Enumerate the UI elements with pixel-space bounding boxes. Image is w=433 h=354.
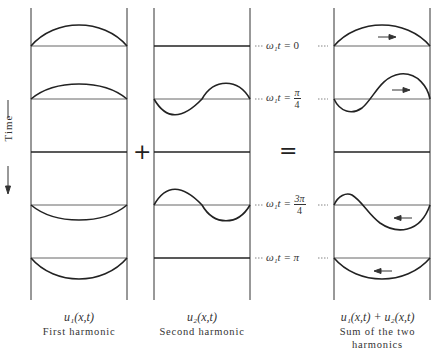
direction-arrows [374,35,412,274]
column-caption-sum: u₁(x,t) + u₂(x,t) Sum of the two harmoni… [322,310,433,351]
arrow-right-icon [389,35,396,40]
sum-t0 [334,25,430,46]
time-label-0: ω₁t = 0 [266,39,299,51]
arrow-left-icon [374,269,381,274]
first-harmonic-t4 [31,258,127,279]
time-label-pi-over-4: ω₁t = π4 [266,87,301,110]
first-harmonic-t3 [31,205,127,220]
time-label-3pi-over-4: ω₁t = 3π4 [266,193,306,216]
column-caption-second: u₂(x,t) Second harmonic [142,310,262,338]
time-axis-label: Time [0,104,16,204]
column-caption-first: u₁(x,t) First harmonic [21,310,137,338]
sum-t4 [334,258,430,279]
arrow-left-icon [394,216,401,221]
equals-symbol: = [279,138,297,163]
plus-symbol: + [133,139,151,164]
waveforms [31,25,430,279]
time-label-pi: ω₁t = π [266,251,299,263]
sum-t1 [334,74,430,112]
first-harmonic-t0 [31,25,127,46]
arrow-right-icon [403,88,410,93]
sum-t3 [334,194,430,230]
first-harmonic-t1 [31,84,127,99]
harmonics-diagram [0,0,433,354]
